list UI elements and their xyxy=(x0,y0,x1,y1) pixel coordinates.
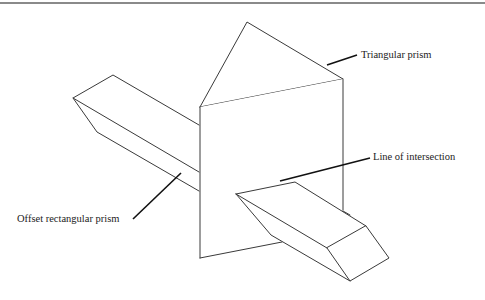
leader-offset-rectangular-prism xyxy=(133,173,181,219)
prism-diagram xyxy=(0,0,485,300)
leader-triangular-prism xyxy=(327,55,357,65)
label-offset-rectangular-prism: Offset rectangular prism xyxy=(17,214,119,225)
label-line-of-intersection: Line of intersection xyxy=(373,152,455,163)
label-triangular-prism: Triangular prism xyxy=(361,50,432,61)
